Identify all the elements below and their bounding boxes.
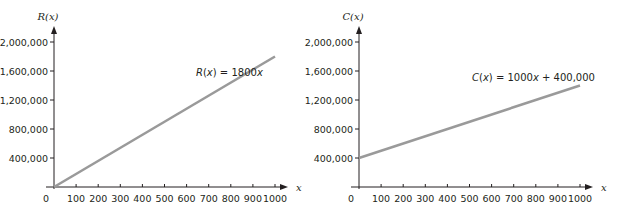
x-tick-label: 100 <box>67 193 85 204</box>
x-tick-label: 800 <box>222 193 240 204</box>
x-axis-arrow-icon <box>585 184 593 190</box>
equation-label: R(x) = 1800x <box>196 67 263 78</box>
equation-label: C(x) = 1000x + 400,000 <box>472 72 595 83</box>
series-line <box>359 86 580 159</box>
y-tick-label: 1,200,000 <box>305 95 353 106</box>
x-tick-label: 400 <box>133 193 151 204</box>
y-tick-label: 800,000 <box>9 124 48 135</box>
origin-label: 0 <box>43 193 49 204</box>
y-axis-arrow-icon <box>51 26 57 34</box>
x-tick-label: 1000 <box>568 193 592 204</box>
chart-cost: C(x)x01002003004005006007008009001000400… <box>305 11 607 204</box>
origin-label: 0 <box>348 193 354 204</box>
x-tick-label: 200 <box>89 193 107 204</box>
x-tick-label: 500 <box>155 193 173 204</box>
x-tick-label: 600 <box>483 193 501 204</box>
x-tick-label: 200 <box>394 193 412 204</box>
x-tick-label: 300 <box>111 193 129 204</box>
y-tick-label: 800,000 <box>314 124 353 135</box>
x-tick-label: 600 <box>178 193 196 204</box>
charts-canvas: R(x)x01002003004005006007008009001000400… <box>0 0 617 208</box>
x-tick-label: 400 <box>438 193 456 204</box>
x-tick-label: 700 <box>505 193 523 204</box>
x-axis-title: x <box>296 182 302 193</box>
x-tick-label: 800 <box>527 193 545 204</box>
y-axis-title: R(x) <box>37 11 59 22</box>
y-tick-label: 400,000 <box>9 153 48 164</box>
y-tick-label: 2,000,000 <box>305 37 353 48</box>
x-tick-label: 900 <box>549 193 567 204</box>
y-tick-label: 1,200,000 <box>0 95 48 106</box>
chart-revenue: R(x)x01002003004005006007008009001000400… <box>0 11 302 204</box>
y-axis-arrow-icon <box>356 26 362 34</box>
x-tick-label: 100 <box>372 193 390 204</box>
y-tick-label: 2,000,000 <box>0 37 48 48</box>
x-axis-title: x <box>601 182 607 193</box>
x-tick-label: 1000 <box>263 193 287 204</box>
x-axis-arrow-icon <box>280 184 288 190</box>
x-tick-label: 900 <box>244 193 262 204</box>
y-tick-label: 400,000 <box>314 153 353 164</box>
y-tick-label: 1,600,000 <box>0 66 48 77</box>
y-tick-label: 1,600,000 <box>305 66 353 77</box>
x-tick-label: 300 <box>416 193 434 204</box>
y-axis-title: C(x) <box>342 11 363 22</box>
x-tick-label: 700 <box>200 193 218 204</box>
x-tick-label: 500 <box>460 193 478 204</box>
